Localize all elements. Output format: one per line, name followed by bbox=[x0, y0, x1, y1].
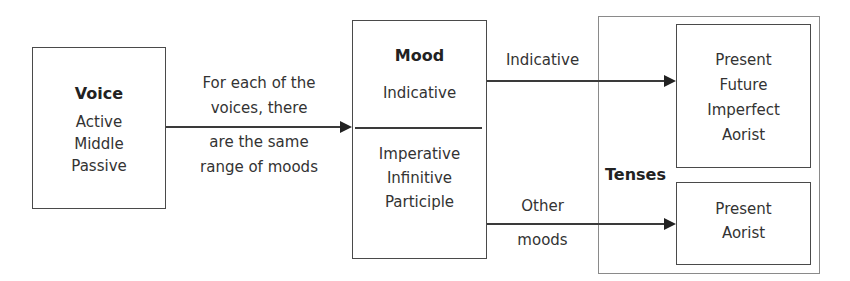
other-tense-present: Present bbox=[677, 199, 810, 220]
other-tenses-box: Present Aorist bbox=[676, 182, 811, 265]
voice-title: Voice bbox=[33, 83, 165, 104]
other-moods-label-line2: moods bbox=[487, 230, 598, 251]
voice-box: Voice Active Middle Passive bbox=[32, 47, 166, 209]
tense-aorist: Aorist bbox=[677, 125, 810, 146]
tense-present: Present bbox=[677, 50, 810, 71]
voice-item-passive: Passive bbox=[33, 156, 165, 177]
voice-to-mood-arrow-line bbox=[166, 126, 342, 128]
indicative-tenses-box: Present Future Imperfect Aorist bbox=[676, 24, 811, 168]
mood-participle: Participle bbox=[353, 192, 486, 213]
voice-item-middle: Middle bbox=[33, 134, 165, 155]
other-tense-aorist: Aorist bbox=[677, 223, 810, 244]
mood-title: Mood bbox=[353, 45, 486, 66]
mood-infinitive: Infinitive bbox=[353, 168, 486, 189]
mood-divider bbox=[355, 127, 482, 129]
other-moods-arrow-line bbox=[487, 223, 665, 225]
mood-imperative: Imperative bbox=[353, 144, 486, 165]
tense-imperfect: Imperfect bbox=[677, 100, 810, 121]
indicative-arrow-label: Indicative bbox=[487, 50, 598, 71]
mood-box: Mood Indicative Imperative Infinitive Pa… bbox=[352, 20, 487, 259]
voice-to-mood-label-line1: For each of the bbox=[166, 73, 352, 94]
voice-item-active: Active bbox=[33, 112, 165, 133]
tenses-label: Tenses bbox=[605, 164, 666, 185]
other-moods-arrowhead-icon bbox=[664, 218, 676, 230]
voice-to-mood-label-line4: range of moods bbox=[166, 157, 352, 178]
indicative-arrow-line bbox=[487, 80, 665, 82]
mood-indicative: Indicative bbox=[353, 83, 486, 104]
indicative-arrowhead-icon bbox=[664, 75, 676, 87]
voice-to-mood-label-line3: are the same bbox=[166, 132, 352, 153]
tense-future: Future bbox=[677, 75, 810, 96]
other-moods-label-line1: Other bbox=[487, 196, 598, 217]
voice-to-mood-label-line2: voices, there bbox=[166, 98, 352, 119]
